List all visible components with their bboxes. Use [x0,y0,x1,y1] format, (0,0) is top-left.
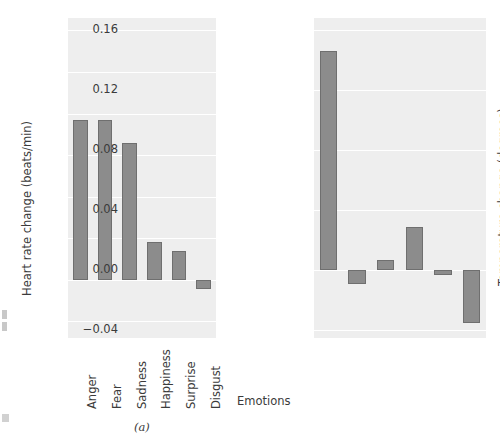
bar [73,120,88,280]
y-tick-label: 0.04 [92,204,118,215]
gridline [314,30,486,31]
y-tick-label: 0.08 [92,144,118,155]
bar [196,280,211,289]
y-tick-label: 0.00 [92,264,118,275]
x-tick-label: Anger [85,375,99,409]
x-axis-label-b: Emotions [237,394,291,408]
y-axis-label-b: Temperature change (degrees) [496,108,500,286]
bar [122,143,137,280]
subcaption-a: (a) [134,420,150,434]
scan-artifact-figure-number [2,414,9,422]
bar [348,270,365,284]
bar [406,227,423,271]
gridline [68,197,216,198]
y-axis-ticks-b: 0.160.120.080.040.00−0.04 [232,0,309,439]
bar [463,270,480,323]
bar [172,251,187,280]
gridline [314,330,486,331]
bar [147,242,162,279]
panel-a: Heart rate change (beats/min) 12.010.08.… [0,0,232,439]
panel-b: Temperature change (degrees) 0.160.120.0… [232,0,500,439]
x-tick-label: Fear [110,384,124,409]
x-tick-label: Disgust [209,366,223,409]
gridline [68,30,216,31]
bar [434,270,451,275]
figure-emotions-physiology: Heart rate change (beats/min) 12.010.08.… [0,0,500,439]
y-tick-label: 0.12 [92,84,118,95]
x-tick-label: Surprise [184,361,198,409]
scan-artifact-mark [2,322,7,331]
gridline [68,114,216,115]
gridline [314,150,486,151]
zero-line [314,270,486,271]
gridline [68,155,216,156]
zero-line [68,280,216,281]
gridline [314,210,486,211]
scan-artifact-mark [2,310,7,319]
gridline [68,72,216,73]
gridline [314,90,486,91]
bar [320,51,337,270]
y-tick-label: 0.16 [92,24,118,35]
x-tick-label: Sadness [135,361,149,409]
bar [377,260,394,271]
y-axis-ticks-a: 12.010.08.06.04.02.00-2.0 [0,0,63,439]
x-tick-label: Happiness [159,349,173,409]
plot-area-b [314,18,486,338]
gridline [68,238,216,239]
plot-area-a [68,18,216,338]
y-tick-label: −0.04 [83,324,118,335]
